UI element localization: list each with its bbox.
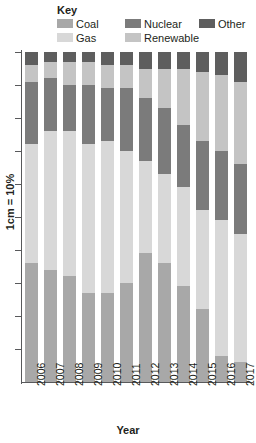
bar-segment-renewable[interactable]: [101, 65, 114, 88]
bar-segment-gas[interactable]: [63, 131, 76, 276]
x-tick-label-2008: 2008: [74, 363, 85, 386]
x-axis-title: Year: [0, 424, 256, 436]
bar-segment-other[interactable]: [101, 52, 114, 65]
bar-segment-nuclear[interactable]: [120, 88, 133, 151]
bar-segment-gas[interactable]: [101, 141, 114, 293]
bar-segment-gas[interactable]: [44, 131, 57, 270]
bar-segment-other[interactable]: [44, 52, 57, 62]
bar-segment-other[interactable]: [82, 52, 95, 62]
bar-segment-renewable[interactable]: [82, 62, 95, 85]
bar-segment-nuclear[interactable]: [139, 98, 152, 161]
y-axis-tick: [15, 316, 21, 317]
bar-segment-other[interactable]: [158, 52, 171, 69]
y-axis-tick: [15, 52, 21, 53]
bar-segment-nuclear[interactable]: [25, 82, 38, 145]
bar-2006[interactable]: [25, 52, 38, 382]
bar-segment-other[interactable]: [120, 52, 133, 65]
bar-2009[interactable]: [82, 52, 95, 382]
y-axis-tick: [15, 250, 21, 251]
bar-2007[interactable]: [44, 52, 57, 382]
bar-2010[interactable]: [101, 52, 114, 382]
bar-segment-renewable[interactable]: [63, 62, 76, 85]
x-tick-label-2014: 2014: [188, 363, 199, 386]
bar-segment-nuclear[interactable]: [177, 125, 190, 188]
bar-2016[interactable]: [215, 52, 228, 382]
bar-segment-nuclear[interactable]: [44, 78, 57, 131]
bar-segment-nuclear[interactable]: [63, 85, 76, 131]
bar-segment-other[interactable]: [234, 52, 247, 82]
x-tick-label-2016: 2016: [226, 363, 237, 386]
bar-segment-renewable[interactable]: [215, 75, 228, 151]
y-axis-tick: [15, 217, 21, 218]
bar-segment-nuclear[interactable]: [82, 85, 95, 144]
bar-2011[interactable]: [120, 52, 133, 382]
bar-segment-renewable[interactable]: [120, 65, 133, 88]
bar-segment-nuclear[interactable]: [215, 151, 228, 220]
x-tick-label-2013: 2013: [169, 363, 180, 386]
bar-segment-renewable[interactable]: [139, 69, 152, 99]
bar-segment-gas[interactable]: [196, 210, 209, 309]
bar-2017[interactable]: [234, 52, 247, 382]
bar-segment-other[interactable]: [196, 52, 209, 72]
bar-segment-renewable[interactable]: [25, 65, 38, 82]
bar-2013[interactable]: [158, 52, 171, 382]
y-axis-tick: [15, 349, 21, 350]
bar-segment-other[interactable]: [215, 52, 228, 75]
x-tick-label-2010: 2010: [112, 363, 123, 386]
bar-segment-nuclear[interactable]: [196, 141, 209, 210]
x-tick-label-2011: 2011: [131, 363, 142, 386]
bar-segment-gas[interactable]: [215, 220, 228, 355]
y-axis-tick: [15, 184, 21, 185]
bar-segment-other[interactable]: [139, 52, 152, 69]
bar-segment-nuclear[interactable]: [158, 108, 171, 174]
bar-2012[interactable]: [139, 52, 152, 382]
x-tick-label-2015: 2015: [207, 363, 218, 386]
plot-area: [22, 52, 250, 382]
x-tick-label-2007: 2007: [55, 363, 66, 386]
bar-segment-renewable[interactable]: [177, 69, 190, 125]
bar-segment-other[interactable]: [63, 52, 76, 62]
stacked-bar-chart: 2006200720082009201020112012201320142015…: [0, 0, 256, 443]
bar-segment-gas[interactable]: [82, 144, 95, 293]
x-tick-label-2009: 2009: [93, 363, 104, 386]
bar-2014[interactable]: [177, 52, 190, 382]
bar-segment-gas[interactable]: [158, 174, 171, 263]
bar-segment-gas[interactable]: [25, 144, 38, 263]
bar-segment-nuclear[interactable]: [234, 164, 247, 233]
bar-segment-renewable[interactable]: [234, 82, 247, 165]
bar-2015[interactable]: [196, 52, 209, 382]
bar-segment-other[interactable]: [25, 52, 38, 65]
x-tick-label-2006: 2006: [36, 363, 47, 386]
bar-segment-gas[interactable]: [139, 161, 152, 253]
x-tick-label-2017: 2017: [245, 363, 256, 386]
bar-2008[interactable]: [63, 52, 76, 382]
bar-segment-renewable[interactable]: [196, 72, 209, 141]
bar-segment-renewable[interactable]: [158, 69, 171, 109]
y-axis-tick: [15, 85, 21, 86]
y-axis-title: 1cm = 10%: [4, 167, 16, 237]
bar-segment-gas[interactable]: [177, 187, 190, 286]
bar-segment-nuclear[interactable]: [101, 88, 114, 141]
bar-segment-renewable[interactable]: [44, 62, 57, 79]
y-axis-tick: [15, 283, 21, 284]
bar-segment-other[interactable]: [177, 52, 190, 69]
y-axis-tick: [15, 118, 21, 119]
x-tick-label-2012: 2012: [150, 363, 161, 386]
y-axis-tick: [15, 151, 21, 152]
bar-segment-gas[interactable]: [120, 151, 133, 283]
bar-segment-gas[interactable]: [234, 234, 247, 363]
